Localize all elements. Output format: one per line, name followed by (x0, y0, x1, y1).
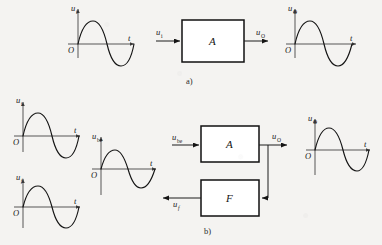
part-b-net-input-plot: u be O t (91, 131, 156, 195)
part-b-net-input-arrow: u be (172, 132, 199, 145)
output-arrow-label: u (272, 131, 276, 141)
output-arrow-label-subscript: O (277, 137, 281, 143)
waveform-sine (78, 21, 134, 66)
caption-part-a: a) (186, 76, 193, 86)
waveform-sine (295, 21, 352, 66)
caption-part-b: b) (204, 226, 211, 236)
y-axis-label: u (71, 3, 75, 13)
feedback-arrow-label: u (173, 199, 177, 209)
part-b-feedback-block[interactable]: F (201, 180, 259, 216)
net-input-arrow-label-subscript: be (177, 138, 183, 144)
part-a-input-arrow: u i (156, 27, 180, 41)
input-arrow-label: u (156, 27, 160, 37)
y-axis-label: u (308, 113, 312, 123)
part-a-output-plot: u O O t (285, 3, 356, 66)
origin-label: O (13, 137, 19, 147)
part-b-input-plot: u i O t (13, 95, 80, 158)
x-axis-label: t (150, 158, 153, 168)
y-axis-label-subscript: O (313, 119, 317, 125)
x-axis-label: t (128, 33, 131, 43)
y-axis-label: u (16, 95, 20, 105)
waveform-sine (23, 113, 79, 158)
y-axis-label-subscript: f (21, 178, 24, 184)
output-arrow-label: u (256, 27, 260, 37)
feedback-arrow-label-subscript: f (178, 205, 181, 211)
figure-canvas: u i O t u i A u O u (0, 0, 382, 245)
origin-label: O (13, 208, 19, 218)
y-axis-label: u (288, 3, 292, 13)
part-a-input-plot: u i O t (68, 3, 134, 66)
figure-svg: u i O t u i A u O u (0, 0, 382, 245)
origin-label: O (305, 151, 311, 161)
x-axis-label: t (74, 196, 77, 206)
x-axis-label: t (364, 139, 367, 149)
part-a-group: u i O t u i A u O u (68, 3, 356, 86)
part-a-amplifier-block[interactable]: A (182, 20, 244, 62)
amplifier-block-letter: A (225, 138, 233, 150)
part-b-feedback-path (262, 145, 268, 198)
part-b-output-arrow: u O (259, 131, 287, 145)
amplifier-block-letter: A (208, 35, 216, 47)
output-arrow-label-subscript: O (261, 33, 265, 39)
input-arrow-label-subscript: i (161, 33, 163, 39)
feedback-tap-line (262, 145, 268, 198)
part-b-amplifier-block[interactable]: A (201, 126, 259, 162)
net-input-arrow-label: u (172, 132, 176, 142)
y-axis-label: u (16, 172, 20, 182)
waveform-sine (315, 128, 369, 171)
part-b-feedback-arrow: u f (163, 198, 201, 211)
y-axis-label-subscript: be (97, 137, 103, 143)
origin-label: O (285, 45, 291, 55)
part-a-output-arrow: u O (244, 27, 268, 41)
x-axis-label: t (74, 125, 77, 135)
origin-label: O (68, 45, 74, 55)
y-axis-label: u (92, 131, 96, 141)
origin-label: O (91, 170, 97, 180)
x-axis-label: t (350, 33, 353, 43)
y-axis-label-subscript: O (293, 9, 297, 15)
part-b-output-plot: u O O t (305, 113, 370, 175)
part-b-group: u i O t u f O t u be O t (13, 95, 370, 236)
part-b-feedback-plot: u f O t (13, 172, 80, 228)
feedback-block-letter: F (225, 192, 233, 204)
